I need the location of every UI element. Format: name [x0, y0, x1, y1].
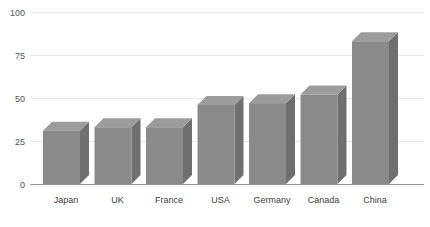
- bar-germany: [249, 94, 295, 184]
- x-tick-label-uk: UK: [111, 195, 124, 205]
- x-tick-label-germany: Germany: [253, 195, 291, 205]
- y-tick-label-75: 75: [15, 51, 25, 61]
- chart-plot-area: 0255075100 JapanUKFranceUSAGermanyCanada…: [0, 0, 430, 227]
- bar-usa: [198, 96, 244, 184]
- y-tick-label-0: 0: [20, 180, 25, 190]
- bar-side-face-uk: [132, 118, 141, 184]
- bar-front-face-france: [146, 127, 183, 184]
- y-axis-tick-labels: 0255075100: [10, 8, 25, 190]
- bar-side-face-germany: [286, 94, 295, 184]
- x-axis-tick-labels: JapanUKFranceUSAGermanyCanadaChina: [54, 195, 387, 205]
- bar-side-face-usa: [235, 96, 244, 184]
- bar-front-face-china: [352, 41, 389, 184]
- x-tick-label-france: France: [155, 195, 183, 205]
- bar-side-face-japan: [80, 122, 89, 184]
- bar-china: [352, 32, 398, 184]
- y-tick-label-25: 25: [15, 137, 25, 147]
- bar-side-face-china: [389, 32, 398, 184]
- x-tick-label-china: China: [363, 195, 387, 205]
- bar-france: [146, 118, 192, 184]
- bar-chart: 0255075100 JapanUKFranceUSAGermanyCanada…: [0, 0, 430, 227]
- bar-front-face-japan: [43, 131, 80, 184]
- bar-side-face-canada: [338, 86, 347, 184]
- x-tick-label-japan: Japan: [54, 195, 79, 205]
- bar-front-face-uk: [95, 127, 132, 184]
- y-tick-label-50: 50: [15, 94, 25, 104]
- bar-canada: [301, 86, 347, 184]
- bar-uk: [95, 118, 141, 184]
- x-tick-label-canada: Canada: [308, 195, 340, 205]
- bar-front-face-germany: [249, 103, 286, 184]
- bar-front-face-canada: [301, 95, 338, 184]
- y-tick-label-100: 100: [10, 8, 25, 18]
- bar-side-face-france: [183, 118, 192, 184]
- x-tick-label-usa: USA: [211, 195, 230, 205]
- bar-japan: [43, 122, 89, 184]
- bar-front-face-usa: [198, 105, 235, 184]
